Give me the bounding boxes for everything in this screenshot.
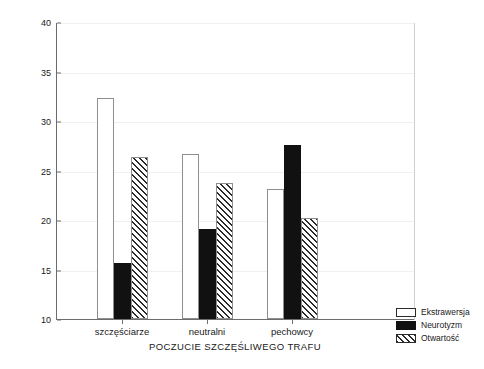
y-tick-label: 20 xyxy=(41,217,51,226)
legend-swatch-icon xyxy=(396,308,416,317)
y-tick-mark xyxy=(57,23,61,24)
bar-szczęściarze-Neurotyzm xyxy=(114,263,131,319)
x-tick-mark xyxy=(207,319,208,324)
bar-szczęściarze-Ekstrawersja xyxy=(97,98,114,319)
y-tick-mark xyxy=(57,270,61,271)
y-tick-mark xyxy=(57,221,61,222)
y-tick-label: 30 xyxy=(41,118,51,127)
bar-pechowcy-Neurotyzm xyxy=(284,145,301,319)
x-category-label-pechowcy: pechowcy xyxy=(271,327,313,337)
x-tick-mark xyxy=(292,319,293,324)
y-gridline xyxy=(57,73,414,74)
y-tick-label: 15 xyxy=(41,266,51,275)
legend-swatch-icon xyxy=(396,321,416,330)
y-tick-label: 40 xyxy=(41,19,51,28)
x-axis-title: POCZUCIE SZCZĘŚLIWEGO TRAFU xyxy=(56,341,414,352)
legend-item-Otwartość: Otwartość xyxy=(396,332,470,344)
plot-frame-right xyxy=(414,23,415,320)
bar-pechowcy-Otwartość xyxy=(301,218,318,319)
bar-neutralni-Neurotyzm xyxy=(199,229,216,319)
bar-neutralni-Otwartość xyxy=(216,183,233,319)
y-axis-title: ŚREDNIE WYNIKÓW xyxy=(4,0,20,47)
y-tick-mark xyxy=(57,171,61,172)
legend-item-Neurotyzm: Neurotyzm xyxy=(396,319,470,331)
bar-neutralni-Ekstrawersja xyxy=(182,154,199,319)
bar-szczęściarze-Otwartość xyxy=(131,157,148,319)
y-tick-label: 10 xyxy=(41,316,51,325)
bar-chart-figure: 10152025303540szczęściarzeneutralnipecho… xyxy=(0,0,484,369)
y-tick-label: 25 xyxy=(41,167,51,176)
y-gridline xyxy=(57,23,414,24)
bar-pechowcy-Ekstrawersja xyxy=(267,189,284,319)
chart-legend: EkstrawersjaNeurotyzmOtwartość xyxy=(396,306,470,345)
legend-label: Ekstrawersja xyxy=(421,308,470,317)
legend-label: Neurotyzm xyxy=(421,321,462,330)
x-tick-mark xyxy=(122,319,123,324)
y-tick-mark xyxy=(57,122,61,123)
y-tick-label: 35 xyxy=(41,68,51,77)
legend-item-Ekstrawersja: Ekstrawersja xyxy=(396,306,470,318)
x-category-label-neutralni: neutralni xyxy=(189,327,225,337)
x-category-label-szczęściarze: szczęściarze xyxy=(95,327,149,337)
legend-label: Otwartość xyxy=(421,334,459,343)
legend-swatch-icon xyxy=(396,334,416,343)
y-tick-mark xyxy=(57,72,61,73)
plot-area: 10152025303540szczęściarzeneutralnipecho… xyxy=(56,23,414,320)
y-tick-mark xyxy=(57,320,61,321)
